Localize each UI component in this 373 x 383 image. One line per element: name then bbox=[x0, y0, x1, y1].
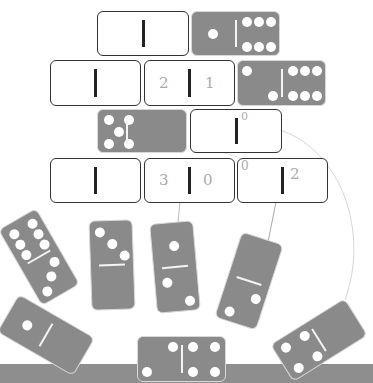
divider bbox=[39, 323, 54, 347]
pip bbox=[142, 367, 152, 377]
pip bbox=[254, 17, 264, 27]
pip bbox=[104, 115, 114, 125]
blank-domino-r4a[interactable] bbox=[50, 158, 141, 203]
divider bbox=[236, 276, 261, 286]
pip bbox=[266, 17, 276, 27]
handwritten-digit: 1 bbox=[205, 74, 215, 92]
pip bbox=[120, 250, 130, 260]
pip bbox=[20, 319, 34, 333]
divider bbox=[126, 118, 128, 144]
pip bbox=[279, 341, 293, 355]
pip bbox=[208, 29, 218, 39]
pip bbox=[242, 42, 252, 52]
divider bbox=[142, 20, 145, 47]
pip bbox=[104, 139, 114, 149]
pip bbox=[188, 342, 198, 352]
blank-domino-r4b[interactable]: 3 0 bbox=[144, 158, 235, 203]
handwritten-digit: 0 bbox=[241, 110, 248, 123]
divider bbox=[235, 118, 238, 144]
blank-domino-r2a[interactable] bbox=[50, 60, 141, 106]
blank-domino-r1a[interactable] bbox=[97, 11, 189, 56]
divider bbox=[281, 69, 283, 97]
domino-2-6 bbox=[237, 60, 326, 106]
divider bbox=[99, 264, 125, 267]
pip bbox=[210, 367, 220, 377]
pip bbox=[298, 329, 312, 343]
divider bbox=[188, 167, 191, 194]
pip bbox=[185, 295, 196, 306]
pip bbox=[114, 127, 124, 137]
divider bbox=[181, 345, 183, 373]
divider bbox=[311, 328, 326, 351]
handwritten-digit: 0 bbox=[241, 159, 249, 173]
divider bbox=[94, 167, 97, 194]
pip bbox=[266, 42, 276, 52]
divider bbox=[94, 69, 97, 97]
pip bbox=[312, 66, 322, 76]
pip bbox=[107, 239, 117, 249]
pip bbox=[300, 91, 310, 101]
pip bbox=[311, 349, 325, 363]
handwritten-digit: 2 bbox=[159, 74, 169, 92]
pip bbox=[188, 367, 198, 377]
pip bbox=[48, 255, 62, 269]
pip bbox=[300, 66, 310, 76]
pip bbox=[95, 227, 105, 237]
divider bbox=[188, 69, 191, 97]
hanging-domino-1-2[interactable] bbox=[149, 220, 201, 313]
pip bbox=[242, 66, 252, 76]
handwritten-digit: 2 bbox=[290, 165, 300, 183]
domino-1-6 bbox=[191, 11, 280, 56]
pip bbox=[268, 91, 278, 101]
pip bbox=[288, 91, 298, 101]
divider bbox=[162, 265, 188, 269]
domino-5-0 bbox=[97, 109, 187, 153]
pip bbox=[312, 91, 322, 101]
pip bbox=[210, 342, 220, 352]
pip bbox=[254, 42, 264, 52]
blank-domino-r3b[interactable]: 0 bbox=[190, 109, 282, 153]
pip bbox=[162, 277, 173, 288]
hanging-domino-3-0[interactable] bbox=[88, 219, 135, 310]
blank-domino-r2b[interactable]: 2 1 bbox=[144, 60, 235, 106]
pip bbox=[223, 305, 236, 318]
pip bbox=[288, 66, 298, 76]
pip bbox=[41, 285, 55, 299]
pip bbox=[168, 342, 178, 352]
blank-domino-r4c[interactable]: 0 2 bbox=[237, 158, 328, 203]
divider bbox=[281, 167, 284, 194]
divider bbox=[235, 20, 237, 47]
handwritten-digit: 3 bbox=[159, 171, 169, 189]
pip bbox=[249, 293, 262, 306]
pip bbox=[292, 361, 306, 375]
pip bbox=[242, 17, 252, 27]
pip bbox=[169, 241, 180, 252]
handwritten-digit: 0 bbox=[203, 171, 213, 189]
floor-domino-3-4[interactable] bbox=[137, 336, 226, 382]
pip bbox=[45, 270, 59, 284]
